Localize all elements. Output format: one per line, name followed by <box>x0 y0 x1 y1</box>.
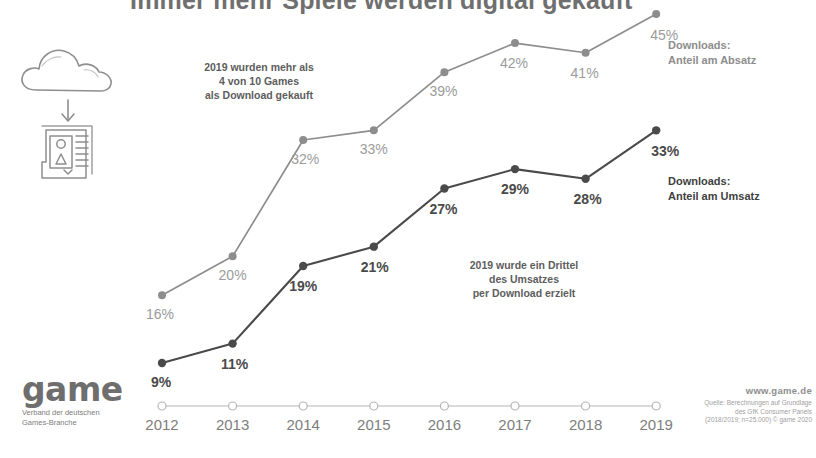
logo-wordmark: game <box>22 375 172 405</box>
data-point-label: 33% <box>651 143 680 159</box>
x-axis-tick-label: 2016 <box>428 416 461 433</box>
series-label-umsatz: Downloads: Anteil am Umsatz <box>668 174 760 204</box>
series-line-absatz <box>162 14 656 295</box>
data-point-label: 39% <box>429 83 457 99</box>
data-point[interactable] <box>581 175 589 183</box>
data-point-label: 27% <box>429 201 458 217</box>
data-point[interactable] <box>158 359 166 367</box>
data-point[interactable] <box>229 252 237 260</box>
x-axis-tick <box>440 402 448 410</box>
x-axis-tick-label: 2014 <box>287 416 320 433</box>
x-axis-tick <box>370 402 378 410</box>
data-point-label: 42% <box>500 55 528 71</box>
x-axis-tick <box>511 402 519 410</box>
annotation-umsatz: 2019 wurde ein Drittel des Umsatzes per … <box>424 258 624 300</box>
source-block: www.game.de Quelle: Berechnungen auf Gru… <box>632 385 812 425</box>
infographic-root: Immer mehr Spiele werden digital gekauft <box>0 0 816 458</box>
data-point[interactable] <box>652 10 660 18</box>
data-point[interactable] <box>370 126 378 134</box>
data-point-label: 11% <box>221 356 249 372</box>
x-axis-tick-label: 2015 <box>357 416 390 433</box>
series-line-umsatz <box>162 130 656 363</box>
data-point[interactable] <box>440 68 448 76</box>
data-point[interactable] <box>511 39 519 47</box>
data-point[interactable] <box>511 165 519 173</box>
annotation-absatz: 2019 wurden mehr als 4 von 10 Games als … <box>168 60 350 102</box>
data-point[interactable] <box>652 126 660 134</box>
series-label-absatz: Downloads: Anteil am Absatz <box>668 38 756 68</box>
x-axis-tick <box>229 402 237 410</box>
source-url[interactable]: www.game.de <box>632 385 812 396</box>
x-axis-tick <box>299 402 307 410</box>
data-point[interactable] <box>299 136 307 144</box>
data-point-label: 41% <box>571 65 599 81</box>
data-point-label: 32% <box>291 151 319 167</box>
data-point[interactable] <box>158 291 166 299</box>
x-axis-tick-label: 2013 <box>216 416 249 433</box>
data-point[interactable] <box>582 49 590 57</box>
data-point[interactable] <box>370 242 378 250</box>
x-axis-tick-label: 2018 <box>569 416 602 433</box>
logo-subtitle: Verband der deutschen Games-Branche <box>22 408 172 428</box>
x-axis-tick <box>582 402 590 410</box>
x-axis-tick-label: 2017 <box>498 416 531 433</box>
data-point-label: 33% <box>360 141 388 157</box>
data-point-label: 19% <box>289 278 318 294</box>
data-point-label: 16% <box>146 306 174 322</box>
data-point-label: 29% <box>501 181 530 197</box>
data-point[interactable] <box>440 184 448 192</box>
game-logo: game Verband der deutschen Games-Branche <box>22 375 172 428</box>
data-point-label: 21% <box>361 259 390 275</box>
data-point-label: 20% <box>219 267 247 283</box>
source-note: Quelle: Berechnungen auf Grundlage des G… <box>632 399 812 425</box>
data-point[interactable] <box>228 339 236 347</box>
data-point[interactable] <box>299 262 307 270</box>
data-point-label: 28% <box>574 191 603 207</box>
